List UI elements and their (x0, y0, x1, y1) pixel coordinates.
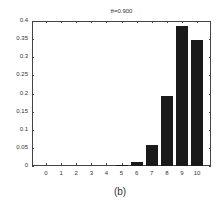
x-tick-mark (61, 21, 62, 23)
bar (161, 96, 173, 166)
x-tick-label: 1 (54, 170, 68, 176)
x-tick-label: 9 (175, 170, 189, 176)
bar (191, 40, 203, 166)
x-tick-label: 0 (39, 170, 53, 176)
x-tick-label: 3 (84, 170, 98, 176)
y-tick-mark (209, 75, 211, 76)
x-tick-mark (61, 163, 62, 165)
y-tick-mark (32, 112, 34, 113)
y-tick-label: 0 (2, 162, 28, 168)
y-tick-mark (209, 39, 211, 40)
y-tick-label: 0.3 (2, 53, 28, 59)
bar (131, 162, 143, 166)
y-tick-mark (32, 39, 34, 40)
x-tick-mark (182, 21, 183, 23)
x-tick-label: 8 (160, 170, 174, 176)
x-tick-mark (137, 21, 138, 23)
bar (116, 165, 128, 166)
y-tick-mark (209, 130, 211, 131)
x-tick-mark (46, 163, 47, 165)
x-tick-mark (76, 163, 77, 165)
y-tick-mark (209, 112, 211, 113)
x-tick-mark (152, 21, 153, 23)
y-tick-mark (32, 75, 34, 76)
x-tick-mark (91, 163, 92, 165)
y-tick-mark (32, 130, 34, 131)
y-tick-mark (209, 148, 211, 149)
x-tick-mark (91, 21, 92, 23)
chart-title: θ=0.900 (32, 8, 211, 14)
y-tick-mark (32, 57, 34, 58)
x-tick-mark (106, 163, 107, 165)
x-tick-mark (122, 21, 123, 23)
y-tick-mark (32, 21, 34, 22)
y-tick-label: 0.05 (2, 144, 28, 150)
x-tick-mark (197, 21, 198, 23)
x-tick-label: 7 (145, 170, 159, 176)
x-tick-mark (46, 21, 47, 23)
y-tick-label: 0.25 (2, 71, 28, 77)
x-tick-label: 10 (190, 170, 204, 176)
x-tick-mark (76, 21, 77, 23)
y-tick-label: 0.1 (2, 126, 28, 132)
y-tick-mark (209, 166, 211, 167)
y-tick-label: 0.15 (2, 108, 28, 114)
y-tick-label: 0.2 (2, 90, 28, 96)
x-tick-mark (167, 21, 168, 23)
x-tick-label: 6 (130, 170, 144, 176)
x-tick-mark (106, 21, 107, 23)
x-tick-label: 5 (115, 170, 129, 176)
bar (176, 26, 188, 166)
y-tick-mark (209, 94, 211, 95)
x-tick-label: 4 (99, 170, 113, 176)
figure-caption: (b) (0, 186, 221, 197)
y-tick-mark (209, 21, 211, 22)
x-tick-label: 2 (69, 170, 83, 176)
bar (146, 145, 158, 166)
y-tick-mark (32, 148, 34, 149)
y-tick-mark (32, 166, 34, 167)
y-tick-mark (209, 57, 211, 58)
y-tick-label: 0.4 (2, 17, 28, 23)
y-tick-label: 0.35 (2, 35, 28, 41)
y-tick-mark (32, 94, 34, 95)
